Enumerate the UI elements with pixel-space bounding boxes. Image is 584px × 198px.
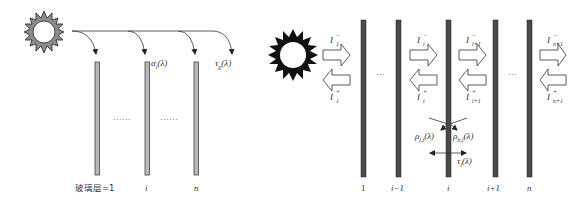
transmittance-label: τg(λ) [215,59,231,70]
layer-label-i: i [145,184,148,193]
layer-label-r-i: i [447,184,450,193]
transmittance-i-label: τi(λ) [457,157,472,168]
glass-panes-right [361,20,532,177]
absorptance-label: αi(λ) [151,59,167,70]
glass-pane-n [194,62,199,175]
arrow-right-icon [459,44,486,66]
flux-label-In1-minus: I−n+1 [547,36,550,45]
arrow-left-icon [540,69,566,91]
glass-pane-r-n [527,20,532,177]
arrow-left-icon [459,69,486,91]
glass-pane-r-1 [361,20,366,177]
glass-pane-i [145,62,150,175]
back-reflectance-label: ρb,i(λ) [453,132,473,143]
ellipsis-right-2: ··· [508,71,517,79]
glass-pane-r-i-minus-1 [396,20,401,177]
flux-label-I1-plus: I+1 [330,93,333,102]
layer-label-r-i-plus-1: i+1 [487,184,500,193]
flux-label-Ii1-plus: I+i+1 [466,93,469,102]
layer-label-r-n: n [527,184,532,193]
flux-label-In1-plus: I+n+1 [547,93,550,102]
flux-label-Ii1-minus: I−i+1 [466,36,469,45]
arrow-right-icon [323,44,350,66]
flux-label-Ii-plus: I+i [417,93,420,102]
glass-pane-1 [95,62,100,175]
arrow-left-icon [410,69,437,91]
glass-panes-left [95,62,199,175]
flux-label-I1-minus: I−1 [330,36,333,45]
sun-icon-right [268,29,318,81]
arrow-left-icon [323,69,350,91]
layer-label-r-1: 1 [361,184,366,193]
arrow-right-icon [410,44,437,66]
diagram-graphics [0,0,584,198]
layer-label-r-i-minus-1: i−1 [391,184,404,193]
ellipsis-right-1: ··· [376,71,385,79]
ellipsis-left-1: ...... [113,114,131,122]
arrow-right-icon [540,44,566,66]
glass-pane-r-i [446,20,451,177]
glazing-diagram: αi(λ) τg(λ) ...... ...... 玻璃层=1 i n I−1 … [0,0,584,198]
front-reflectance-label: ρf,i(λ) [415,132,434,143]
glass-pane-r-i-plus-1 [493,20,498,177]
sun-icon-left [24,11,64,53]
incident-rays [72,31,232,54]
ellipsis-left-2: ...... [160,114,178,122]
layer-label-1: 玻璃层=1 [75,184,115,193]
flux-label-Ii-minus: I−i [417,36,420,45]
layer-label-n: n [194,184,199,193]
